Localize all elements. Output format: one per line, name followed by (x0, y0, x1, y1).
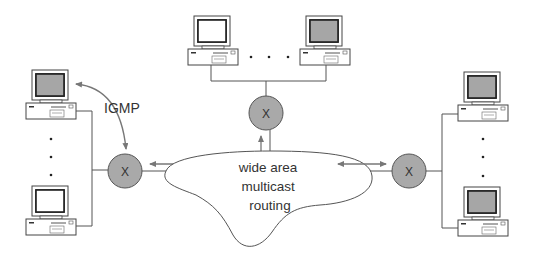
computer-icon (300, 16, 350, 65)
svg-text:X: X (405, 165, 413, 179)
multicast-network-diagram: IGMP X X wide area multicast routi (0, 0, 534, 257)
computer-icon (458, 187, 508, 236)
router-right: X (392, 154, 426, 188)
igmp-label: IGMP (104, 100, 140, 116)
vertical-ellipsis-icon (50, 138, 53, 177)
top-host-group (188, 16, 350, 97)
lan-line (211, 65, 326, 97)
router-left: X (108, 154, 142, 188)
igmp-arrow (76, 84, 126, 149)
left-host-group (26, 70, 108, 235)
router-top: X (249, 96, 283, 130)
right-host-group (426, 72, 508, 236)
svg-text:X: X (121, 165, 129, 179)
computer-icon (188, 16, 238, 65)
svg-text:X: X (262, 107, 270, 121)
lan-line (76, 111, 108, 226)
computer-icon (458, 72, 508, 121)
computer-icon (26, 70, 76, 119)
computer-icon (26, 186, 76, 235)
lan-line (426, 114, 458, 228)
vertical-ellipsis-icon (482, 138, 485, 178)
horizontal-ellipsis-icon (250, 56, 290, 59)
